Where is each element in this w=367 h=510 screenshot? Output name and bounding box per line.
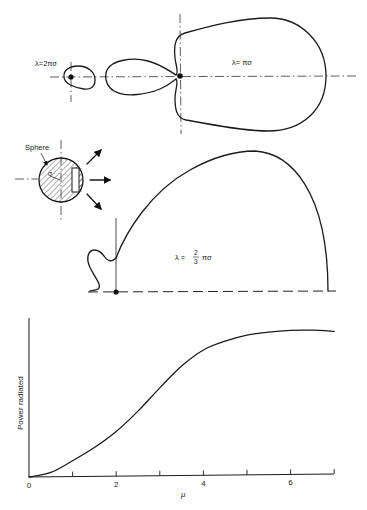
sphere-label: Sphere — [25, 143, 49, 152]
y-axis-label: Power radiated — [16, 376, 25, 430]
aperture-rectangle — [72, 168, 79, 192]
svg-text:πσ: πσ — [202, 253, 212, 262]
large-pattern-origin-dot — [177, 73, 183, 79]
figure-canvas: λ=2πσ λ= πσ σ Sphere — [0, 0, 367, 510]
arrow-down-right-icon — [87, 194, 101, 209]
label-lambda-two-thirds: λ = 2 3 πσ — [175, 249, 212, 265]
x-tick-label: 2 — [114, 480, 119, 489]
middle-main-lobe — [116, 151, 328, 291]
middle-origin-dot — [113, 289, 118, 294]
x-tick-label: 6 — [288, 478, 293, 487]
power-chart: 0246 μ Power radiated — [16, 318, 334, 499]
power-curve — [29, 330, 334, 477]
top-horizontal-axis — [50, 76, 356, 77]
x-axis — [29, 474, 334, 477]
arrow-up-right-icon — [87, 150, 101, 164]
middle-pattern: λ = 2 3 πσ — [88, 151, 336, 295]
small-pattern-origin-dot — [68, 74, 73, 79]
label-lambda-pi: λ= πσ — [232, 58, 252, 67]
x-axis-label: μ — [180, 490, 186, 499]
x-tick-label: 0 — [27, 481, 32, 490]
svg-text:2: 2 — [194, 249, 198, 256]
top-patterns: λ=2πσ λ= πσ — [35, 14, 356, 134]
svg-text:3: 3 — [194, 258, 198, 265]
x-axis-tick-labels: 0246 — [27, 478, 294, 490]
main-lobe — [175, 18, 326, 131]
sphere-schematic: σ Sphere — [15, 140, 110, 222]
label-lambda-2pi: λ=2πσ — [35, 59, 57, 68]
middle-baseline — [88, 291, 336, 292]
svg-text:λ =: λ = — [175, 253, 186, 262]
sphere-leader-arrow — [41, 153, 47, 165]
x-tick-label: 4 — [201, 479, 206, 488]
middle-side-lobe — [88, 250, 116, 291]
